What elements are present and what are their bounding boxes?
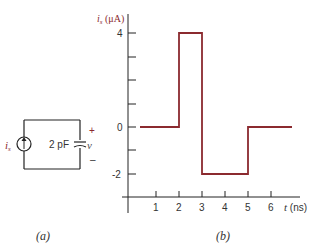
y-tick-label-4: 4 bbox=[117, 28, 123, 39]
y-ticks bbox=[128, 33, 136, 174]
x-tick-label-6: 6 bbox=[268, 202, 274, 213]
y-axis-label: is (μA) bbox=[97, 13, 124, 26]
x-tick-label-2: 2 bbox=[176, 202, 182, 213]
x-tick-label-1: 1 bbox=[153, 202, 159, 213]
y-tick-label-0: 0 bbox=[117, 122, 123, 133]
waveform-graph: is (μA) 4 0 -2 1 2 3 4 5 6 t (ns) (b) bbox=[97, 13, 307, 243]
caption-a: (a) bbox=[36, 229, 50, 243]
plus-sign: + bbox=[89, 125, 95, 136]
figure: is 2 pF v + – (a) is (μA) bbox=[0, 0, 314, 243]
circuit-diagram: is 2 pF v + – (a) bbox=[5, 120, 96, 243]
current-waveform bbox=[140, 33, 292, 174]
caption-b: (b) bbox=[216, 229, 230, 243]
voltage-label: v bbox=[87, 139, 92, 151]
x-tick-label-3: 3 bbox=[199, 202, 205, 213]
current-source-icon bbox=[17, 137, 31, 151]
y-tick-label-neg2: -2 bbox=[112, 169, 121, 180]
x-tick-label-5: 5 bbox=[245, 202, 251, 213]
x-axis-label: t (ns) bbox=[284, 201, 307, 213]
capacitance-label: 2 pF bbox=[49, 139, 69, 150]
source-label: is bbox=[5, 139, 11, 153]
capacitor-icon bbox=[74, 140, 86, 148]
x-ticks bbox=[156, 191, 271, 197]
x-tick-label-4: 4 bbox=[222, 202, 228, 213]
minus-sign: – bbox=[90, 154, 96, 165]
